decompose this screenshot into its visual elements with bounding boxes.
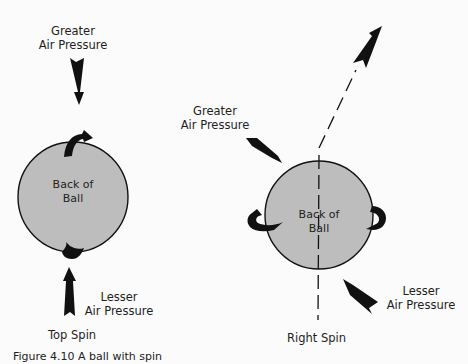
down-pressure-arrow-icon bbox=[70, 58, 84, 105]
label-line: Air Pressure bbox=[84, 304, 154, 318]
greater-pressure-arrow-icon bbox=[246, 138, 282, 163]
top-spin-title: Top Spin bbox=[48, 328, 96, 342]
figure-caption: Figure 4.10 A ball with spin bbox=[13, 350, 162, 364]
label-line: Air Pressure bbox=[180, 118, 250, 132]
label-line: Greater bbox=[38, 24, 108, 38]
right-ball-label: Back of Ball bbox=[290, 208, 348, 236]
label-line: Air Pressure bbox=[38, 38, 108, 52]
label-line: Back of bbox=[290, 208, 348, 222]
label-line: Ball bbox=[44, 192, 102, 206]
up-pressure-arrow-icon bbox=[63, 267, 76, 316]
label-line: Ball bbox=[290, 222, 348, 236]
label-line: Lesser bbox=[384, 284, 458, 298]
left-lesser-pressure-label: Lesser Air Pressure bbox=[84, 290, 154, 318]
trajectory-arrow-icon bbox=[353, 26, 382, 68]
label-line: Back of bbox=[44, 178, 102, 192]
left-greater-pressure-label: Greater Air Pressure bbox=[38, 24, 108, 52]
right-lesser-pressure-label: Lesser Air Pressure bbox=[384, 284, 458, 312]
lesser-pressure-arrow-icon bbox=[343, 279, 378, 314]
right-spin-title: Right Spin bbox=[287, 331, 346, 345]
trajectory-line bbox=[319, 70, 356, 148]
left-ball-label: Back of Ball bbox=[44, 178, 102, 206]
label-line: Lesser bbox=[84, 290, 154, 304]
label-line: Greater bbox=[180, 104, 250, 118]
label-line: Air Pressure bbox=[384, 298, 458, 312]
right-greater-pressure-label: Greater Air Pressure bbox=[180, 104, 250, 132]
